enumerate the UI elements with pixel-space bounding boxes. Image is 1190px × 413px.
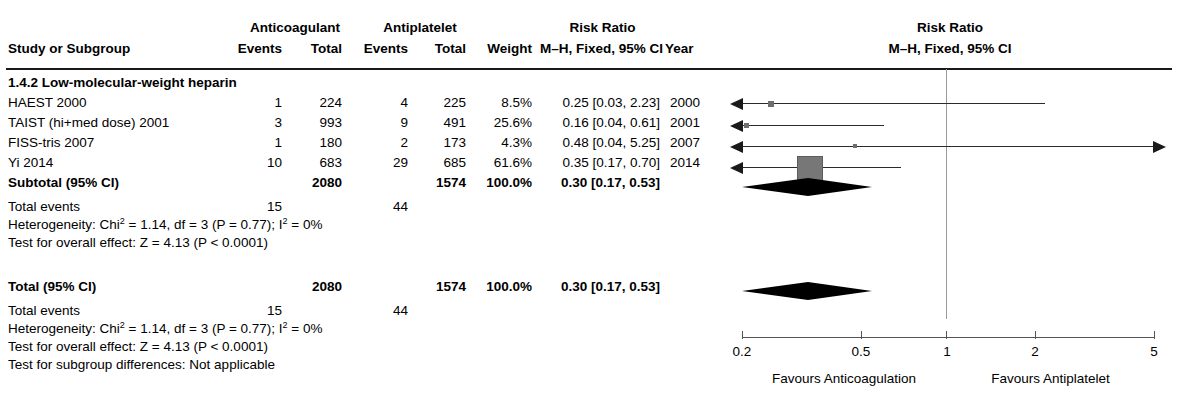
study-weight: 8.5% bbox=[470, 94, 532, 112]
header-year: Year bbox=[665, 41, 694, 56]
x-axis-tick bbox=[1035, 331, 1036, 339]
confidence-interval-line bbox=[742, 103, 1045, 104]
header-total-2: Total bbox=[414, 41, 466, 56]
x-axis-tick-label: 5 bbox=[1134, 344, 1174, 359]
subtotal-effect: 0.30 [0.17, 0.53] bbox=[540, 174, 660, 192]
x-axis-tick-label: 1 bbox=[927, 344, 967, 359]
subtotal-total-events-2: 44 bbox=[348, 198, 408, 216]
subtotal-weight: 100.0% bbox=[470, 174, 532, 192]
x-axis-tick bbox=[946, 331, 947, 339]
ci-left-arrow-icon bbox=[730, 120, 743, 132]
x-axis-tick-label: 0.2 bbox=[722, 344, 762, 359]
study-effect-marker bbox=[768, 101, 774, 107]
ci-left-arrow-icon bbox=[730, 162, 743, 174]
header-events-1: Events bbox=[222, 41, 282, 56]
favours-left-label: Favours Anticoagulation bbox=[742, 371, 946, 386]
subtotal-total-2: 1574 bbox=[414, 174, 466, 192]
confidence-interval-line bbox=[742, 146, 1154, 147]
x-axis-line bbox=[742, 337, 1155, 338]
total-weight: 100.0% bbox=[470, 278, 532, 296]
subtotal-overall-effect: Test for overall effect: Z = 4.13 (P < 0… bbox=[8, 234, 268, 252]
study-events-2: 29 bbox=[348, 154, 408, 172]
header-risk-ratio: Risk Ratio bbox=[540, 20, 665, 35]
study-total-2: 173 bbox=[414, 134, 466, 152]
study-name: Yi 2014 bbox=[8, 154, 53, 172]
total-diamond bbox=[740, 280, 874, 302]
study-year: 2000 bbox=[662, 94, 700, 112]
total-total-2: 1574 bbox=[414, 278, 466, 296]
study-total-2: 685 bbox=[414, 154, 466, 172]
x-axis-tick bbox=[1154, 331, 1155, 339]
study-events-2: 4 bbox=[348, 94, 408, 112]
study-effect-marker bbox=[853, 144, 857, 148]
ci-right-arrow-icon bbox=[1153, 141, 1166, 153]
study-total-1: 224 bbox=[290, 94, 342, 112]
x-axis-tick-label: 2 bbox=[1015, 344, 1055, 359]
total-total-1: 2080 bbox=[290, 278, 342, 296]
total-label: Total (95% CI) bbox=[8, 278, 96, 296]
study-effect: 0.48 [0.04, 5.25] bbox=[540, 134, 660, 152]
header-study-or-subgroup: Study or Subgroup bbox=[8, 41, 130, 56]
study-events-2: 2 bbox=[348, 134, 408, 152]
x-axis-tick bbox=[742, 331, 743, 339]
study-weight: 61.6% bbox=[470, 154, 532, 172]
study-effect-marker bbox=[744, 123, 749, 128]
study-total-1: 993 bbox=[290, 114, 342, 132]
confidence-interval-line bbox=[742, 125, 884, 126]
study-total-1: 683 bbox=[290, 154, 342, 172]
study-events-1: 10 bbox=[222, 154, 282, 172]
heterogeneity-mid: = 1.14, df = 3 (P = 0.77); I bbox=[125, 321, 283, 336]
study-total-2: 225 bbox=[414, 94, 466, 112]
x-axis-tick bbox=[861, 331, 862, 339]
x-axis-tick-label: 0.5 bbox=[841, 344, 881, 359]
heterogeneity-prefix: Heterogeneity: Chi bbox=[8, 217, 120, 232]
study-total-2: 491 bbox=[414, 114, 466, 132]
study-events-1: 1 bbox=[222, 94, 282, 112]
subgroup-heading: 1.4.2 Low-molecular-weight heparin bbox=[8, 74, 237, 92]
header-events-2: Events bbox=[348, 41, 408, 56]
subtotal-total-1: 2080 bbox=[290, 174, 342, 192]
subtotal-total-events-label: Total events bbox=[8, 198, 80, 216]
study-events-1: 1 bbox=[222, 134, 282, 152]
subtotal-heterogeneity: Heterogeneity: Chi2 = 1.14, df = 3 (P = … bbox=[8, 216, 322, 234]
study-name: TAIST (hi+med dose) 2001 bbox=[8, 114, 169, 132]
subtotal-diamond bbox=[740, 176, 874, 198]
study-weight: 25.6% bbox=[470, 114, 532, 132]
null-effect-line bbox=[946, 69, 947, 319]
study-name: FISS-tris 2007 bbox=[8, 134, 94, 152]
heterogeneity-prefix: Heterogeneity: Chi bbox=[8, 321, 120, 336]
study-effect: 0.35 [0.17, 0.70] bbox=[540, 154, 660, 172]
ci-left-arrow-icon bbox=[730, 141, 743, 153]
header-group-antiplatelet: Antiplatelet bbox=[365, 20, 475, 35]
study-year: 2001 bbox=[662, 114, 700, 132]
study-effect: 0.25 [0.03, 2.23] bbox=[540, 94, 660, 112]
study-name: HAEST 2000 bbox=[8, 94, 87, 112]
heterogeneity-suffix: = 0% bbox=[288, 321, 323, 336]
total-total-events-label: Total events bbox=[8, 302, 80, 320]
header-total-1: Total bbox=[290, 41, 342, 56]
study-effect: 0.16 [0.04, 0.61] bbox=[540, 114, 660, 132]
header-weight: Weight bbox=[470, 41, 532, 56]
subtotal-label: Subtotal (95% CI) bbox=[8, 174, 119, 192]
total-total-events-1: 15 bbox=[222, 302, 282, 320]
header-rule bbox=[6, 68, 1172, 70]
study-events-2: 9 bbox=[348, 114, 408, 132]
total-overall-effect: Test for overall effect: Z = 4.13 (P < 0… bbox=[8, 338, 268, 356]
header-plot-effect-method: M–H, Fixed, 95% CI bbox=[830, 41, 1070, 56]
study-year: 2007 bbox=[662, 134, 700, 152]
study-year: 2014 bbox=[662, 154, 700, 172]
total-effect: 0.30 [0.17, 0.53] bbox=[540, 278, 660, 296]
total-heterogeneity: Heterogeneity: Chi2 = 1.14, df = 3 (P = … bbox=[8, 320, 322, 338]
study-events-1: 3 bbox=[222, 114, 282, 132]
forest-plot-figure: Anticoagulant Antiplatelet Risk Ratio Ri… bbox=[0, 0, 1190, 413]
heterogeneity-suffix: = 0% bbox=[288, 217, 323, 232]
ci-left-arrow-icon bbox=[730, 98, 743, 110]
total-subgroup-differences: Test for subgroup differences: Not appli… bbox=[8, 356, 275, 374]
total-total-events-2: 44 bbox=[348, 302, 408, 320]
header-plot-risk-ratio: Risk Ratio bbox=[830, 20, 1070, 35]
header-group-anticoagulant: Anticoagulant bbox=[236, 20, 354, 35]
study-total-1: 180 bbox=[290, 134, 342, 152]
favours-right-label: Favours Antiplatelet bbox=[946, 371, 1155, 386]
header-effect-method: M–H, Fixed, 95% CI bbox=[540, 41, 663, 56]
study-weight: 4.3% bbox=[470, 134, 532, 152]
